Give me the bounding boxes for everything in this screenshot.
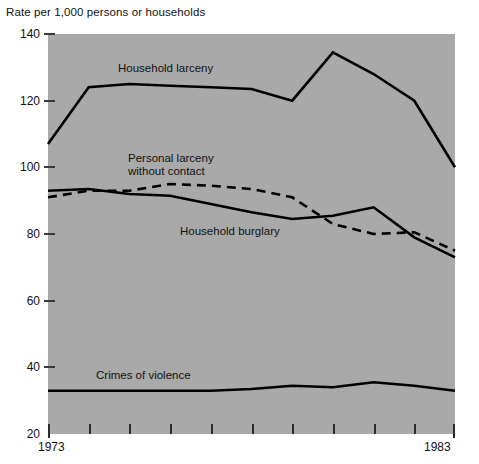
series-label-household-larceny: Household larceny — [118, 62, 213, 75]
series-line-household-larceny — [48, 52, 455, 167]
series-line-household-burglary — [48, 189, 455, 257]
line-chart: Rate per 1,000 persons or households 140… — [0, 0, 479, 464]
series-label-household-burglary: Household burglary — [180, 225, 280, 238]
series-label-crimes-of-violence: Crimes of violence — [96, 369, 191, 382]
series-label-personal-larceny-line1: Personal larceny — [128, 152, 214, 165]
series-line-crimes-of-violence — [48, 382, 455, 390]
series-line-personal-larceny-without-contact — [48, 184, 455, 251]
series-label-personal-larceny-line2: without contact — [128, 165, 205, 178]
